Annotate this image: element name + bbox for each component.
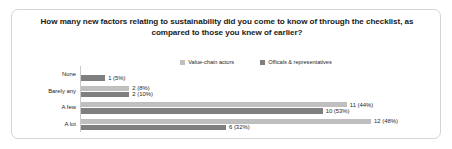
bar-value-chain-barely-any[interactable] [81, 86, 129, 91]
chart-card: How many new factors relating to sustain… [0, 0, 452, 149]
bar-value-chain-a-few[interactable] [81, 102, 347, 107]
bar-officals-barely-any[interactable] [81, 92, 129, 97]
category-group-barely-any: Barely any 2 (8%) 2 (10%) [22, 83, 432, 100]
bar-value-officals-a-few: 10 (53%) [326, 108, 350, 114]
legend-label: Value-chain actors [188, 59, 234, 65]
category-label-none: None [26, 66, 80, 83]
legend-item-officals-representatives[interactable]: Officals & representatives [260, 59, 332, 65]
bar-value-value-chain-a-few: 11 (44%) [350, 102, 373, 108]
legend-item-value-chain-actors[interactable]: Value-chain actors [180, 59, 234, 65]
bar-officals-a-few[interactable] [81, 108, 323, 113]
plot-area: None 1 (5%) Barely any 2 (8%) 2 (10%) A … [22, 66, 432, 132]
category-label-a-few: A few [26, 99, 80, 116]
bar-row-officals-none: 1 (5%) [81, 75, 126, 80]
bar-row-officals-a-few: 10 (53%) [81, 108, 350, 113]
chart-title: How many new factors relating to sustain… [24, 16, 430, 38]
bar-officals-a-lot[interactable] [81, 125, 226, 130]
bar-row-value-chain-a-few: 11 (44%) [81, 102, 373, 107]
bar-value-chain-a-lot[interactable] [81, 119, 371, 124]
bar-value-value-chain-a-lot: 12 (48%) [374, 118, 398, 124]
bar-row-value-chain-barely-any: 2 (8%) [81, 86, 150, 91]
bar-value-officals-a-lot: 6 (32%) [229, 124, 250, 130]
legend-swatch-icon [180, 60, 185, 65]
legend-label: Officals & representatives [268, 59, 332, 65]
bar-row-officals-barely-any: 2 (10%) [81, 92, 153, 97]
category-group-a-lot: A lot 12 (48%) 6 (32%) [22, 116, 432, 133]
category-group-a-few: A few 11 (44%) 10 (53%) [22, 99, 432, 116]
category-label-a-lot: A lot [26, 116, 80, 133]
bar-officals-none[interactable] [81, 75, 105, 80]
bar-value-officals-none: 1 (5%) [108, 75, 125, 81]
category-label-barely-any: Barely any [26, 83, 80, 100]
bar-row-value-chain-a-lot: 12 (48%) [81, 119, 398, 124]
bar-value-value-chain-barely-any: 2 (8%) [132, 85, 149, 91]
legend-swatch-icon [260, 60, 265, 65]
category-group-none: None 1 (5%) [22, 66, 432, 83]
bar-value-officals-barely-any: 2 (10%) [132, 91, 153, 97]
bar-row-officals-a-lot: 6 (32%) [81, 125, 250, 130]
